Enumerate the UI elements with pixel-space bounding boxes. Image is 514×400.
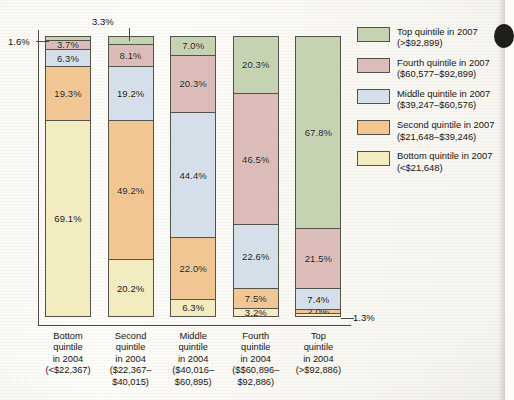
segment-value-label: 44.4% — [179, 170, 206, 181]
legend-label: Top quintile in 2007(>$92,899) — [397, 26, 478, 49]
x-axis-label-line: $92,886) — [217, 377, 295, 388]
segment-value-label: 8.1% — [120, 50, 142, 61]
x-axis-label-line: in 2004 — [279, 354, 357, 365]
segment-value-label: 20.2% — [117, 283, 144, 294]
y-axis-line — [38, 30, 39, 326]
legend-item-2[interactable]: Fourth quintile in 2007($60,577–$92,899) — [357, 57, 499, 80]
callout-leader-right — [341, 318, 354, 319]
legend-label-line1: Bottom quintile in 2007 — [397, 150, 492, 161]
legend-color-swatch — [357, 120, 390, 135]
legend-label: Bottom quintile in 2007(<$21,648) — [397, 150, 492, 173]
bar-3-segment-bottom[interactable]: 6.3% — [170, 299, 216, 317]
callout-leader-top — [129, 28, 130, 41]
segment-value-label: 69.1% — [54, 213, 81, 224]
segment-value-label: 20.3% — [242, 59, 269, 70]
legend-label: Second quintile in 2007($21,648–$39,246) — [397, 119, 494, 142]
bar-4-segment-bottom[interactable]: 3.2% — [233, 308, 279, 317]
bar-1-segment-bottom[interactable]: 69.1% — [45, 120, 91, 317]
stacked-bar-5[interactable]: 67.8%21.5%7.4%2.0%1.3% — [295, 36, 341, 321]
segment-value-label: 7.5% — [245, 293, 267, 304]
legend-label-line2: (<$21,648) — [397, 162, 492, 173]
legend-label: Middle quintile in 2007($39,247–$60,576) — [397, 88, 490, 111]
legend-color-swatch — [357, 27, 390, 42]
bar-3-segment-fourth[interactable]: 20.3% — [170, 55, 216, 113]
x-axis-label-5: Topquintilein 2004(>$92,886) — [279, 331, 357, 377]
bar-2-segment-fourth[interactable]: 8.1% — [108, 44, 154, 67]
bar-1-segment-middle[interactable]: 6.3% — [45, 49, 91, 67]
legend-color-swatch — [357, 89, 390, 104]
stacked-bar-plot-area: 1.6%3.7%6.3%19.3%69.1%3.3%8.1%19.2%49.2%… — [45, 36, 342, 321]
stacked-bar-3[interactable]: 7.0%20.3%44.4%22.0%6.3% — [170, 36, 216, 321]
bar-5-segment-top[interactable]: 67.8% — [295, 36, 341, 229]
x-axis-label-line: quintile — [279, 342, 357, 353]
segment-value-label: 67.8% — [305, 127, 332, 138]
legend-label-line1: Fourth quintile in 2007 — [397, 57, 490, 68]
legend-label-line2: ($21,648–$39,246) — [397, 131, 494, 142]
segment-value-label: 20.3% — [179, 78, 206, 89]
legend-label-line1: Top quintile in 2007 — [397, 26, 478, 37]
segment-value-label: 49.2% — [117, 185, 144, 196]
segment-value-label: 19.2% — [117, 88, 144, 99]
stacked-bar-2[interactable]: 3.3%8.1%19.2%49.2%20.2% — [108, 36, 154, 321]
segment-value-label: 3.2% — [245, 307, 267, 318]
bar-3-segment-second[interactable]: 22.0% — [170, 237, 216, 300]
bar-5-segment-bottom[interactable]: 1.3% — [295, 313, 341, 317]
segment-value-label: 22.6% — [242, 251, 269, 262]
bar-2-segment-bottom[interactable]: 20.2% — [108, 259, 154, 317]
bar-2-segment-second[interactable]: 49.2% — [108, 120, 154, 260]
callout-label-3-3: 3.3% — [92, 16, 114, 27]
bar-3-segment-middle[interactable]: 44.4% — [170, 112, 216, 239]
callout-label-1-6: 1.6% — [8, 36, 30, 47]
segment-value-label: 22.0% — [179, 263, 206, 274]
x-axis-label-line: Top — [279, 331, 357, 342]
bar-4-segment-second[interactable]: 7.5% — [233, 288, 279, 309]
legend-label: Fourth quintile in 2007($60,577–$92,899) — [397, 57, 490, 80]
callout-leader-left — [36, 41, 49, 42]
bar-5-segment-fourth[interactable]: 21.5% — [295, 228, 341, 289]
legend-color-swatch — [357, 58, 390, 73]
bar-3-segment-top[interactable]: 7.0% — [170, 36, 216, 56]
x-axis-line — [38, 325, 351, 326]
x-axis-label-line: (>$92,886) — [279, 365, 357, 376]
legend: Top quintile in 2007(>$92,899)Fourth qui… — [357, 26, 499, 181]
segment-value-label: 19.3% — [54, 88, 81, 99]
legend-item-3[interactable]: Middle quintile in 2007($39,247–$60,576) — [357, 88, 499, 111]
legend-item-1[interactable]: Top quintile in 2007(>$92,899) — [357, 26, 499, 49]
segment-value-label: 21.5% — [305, 253, 332, 264]
legend-label-line2: ($39,247–$60,576) — [397, 99, 490, 110]
bar-2-segment-middle[interactable]: 19.2% — [108, 66, 154, 121]
legend-label-line1: Middle quintile in 2007 — [397, 88, 490, 99]
page-edge-hole-artifact — [494, 24, 514, 48]
stacked-bar-4[interactable]: 20.3%46.5%22.6%7.5%3.2% — [233, 36, 279, 321]
segment-value-label: 46.5% — [242, 154, 269, 165]
segment-value-label: 7.0% — [182, 40, 204, 51]
legend-item-5[interactable]: Bottom quintile in 2007(<$21,648) — [357, 150, 499, 173]
bar-4-segment-fourth[interactable]: 46.5% — [233, 93, 279, 226]
legend-color-swatch — [357, 151, 390, 166]
page-edge-shadow — [498, 0, 505, 400]
stacked-bar-1[interactable]: 1.6%3.7%6.3%19.3%69.1% — [45, 36, 91, 321]
legend-item-4[interactable]: Second quintile in 2007($21,648–$39,246) — [357, 119, 499, 142]
callout-label-1-3: 1.3% — [353, 312, 375, 323]
legend-label-line1: Second quintile in 2007 — [397, 119, 494, 130]
bar-4-segment-top[interactable]: 20.3% — [233, 36, 279, 94]
segment-value-label: 6.3% — [57, 53, 79, 64]
segment-value-label: 7.4% — [307, 294, 329, 305]
bar-4-segment-middle[interactable]: 22.6% — [233, 224, 279, 288]
bar-1-segment-second[interactable]: 19.3% — [45, 66, 91, 121]
legend-label-line2: ($60,577–$92,899) — [397, 68, 490, 79]
segment-value-label: 6.3% — [182, 302, 204, 313]
legend-label-line2: (>$92,899) — [397, 37, 478, 48]
